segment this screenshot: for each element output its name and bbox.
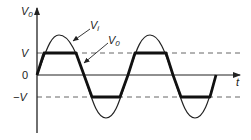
minus-v-label: −V (13, 91, 28, 103)
clipper-waveform-diagram: V0 V 0 −V t Vi V0 (0, 0, 251, 140)
zero-label: 0 (22, 69, 28, 81)
y-axis-label: V0 (21, 5, 33, 19)
vo-label: V0 (108, 34, 120, 48)
plus-v-label: V (21, 47, 30, 59)
vi-callout-arrow (73, 29, 90, 41)
vi-label: Vi (90, 19, 99, 33)
t-axis-label: t (236, 76, 240, 88)
